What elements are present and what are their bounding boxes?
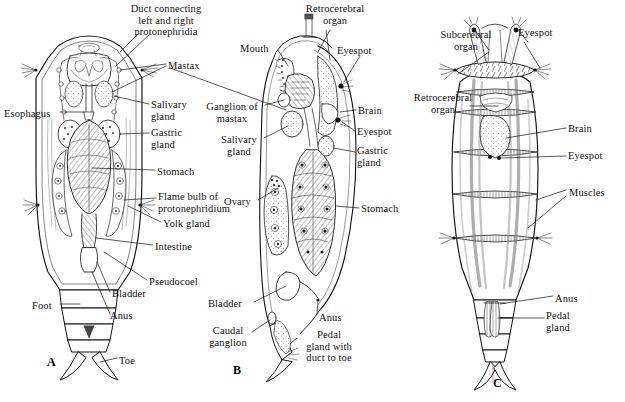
label-anus-b: Anus <box>319 312 351 324</box>
label-anus-c: Anus <box>555 293 587 305</box>
label-retrocerebral-organ-c: Retrocerebral organ <box>404 92 482 115</box>
plate-letter-b: B <box>233 363 241 378</box>
a-intestine <box>81 214 96 248</box>
label-bladder-a: Bladder <box>112 288 158 300</box>
b-salivary-gland <box>281 111 303 137</box>
label-esophagus: Esophagus <box>4 108 60 120</box>
label-duct-connecting-protonephridia: Duct connecting left and right protoneph… <box>116 3 216 38</box>
label-gastric-gland-a: Gastric gland <box>151 127 201 150</box>
label-eyespot-b1: Eyespot <box>337 45 383 57</box>
label-subcerebral-organ: Subcerebral organ <box>431 29 501 52</box>
plate-letter-c: C <box>493 376 502 391</box>
b-bladder <box>276 272 300 300</box>
label-retrocerebral-organ-b: Retrocerebral organ <box>296 3 374 26</box>
b-toe <box>266 360 292 382</box>
label-pseudocoel: Pseudocoel <box>149 276 211 288</box>
label-mastax: Mastax <box>168 60 214 72</box>
label-stomach-a: Stomach <box>157 166 209 178</box>
label-stomach-b: Stomach <box>361 203 413 215</box>
b-eyespot-lower <box>335 117 340 122</box>
panel-a-drawing <box>21 36 157 380</box>
label-caudal-ganglion: Caudal ganglion <box>203 325 253 348</box>
b-eyespot-upper <box>338 83 343 88</box>
label-eyespot-b2: Eyespot <box>357 126 403 138</box>
label-salivary-gland-b: Salivary gland <box>214 134 264 157</box>
label-foot: Foot <box>32 300 60 312</box>
b-esophagus <box>304 108 310 146</box>
label-eyespot-c2: Eyespot <box>568 150 614 162</box>
label-intestine: Intestine <box>155 241 205 253</box>
label-eyespot-c1: Eyespot <box>518 27 564 39</box>
panel-b-drawing <box>260 14 356 382</box>
label-gastric-gland-b: Gastric gland <box>357 145 407 168</box>
label-anus-a: Anus <box>110 310 142 322</box>
c-corona-band <box>455 62 535 78</box>
label-toe: Toe <box>119 355 145 367</box>
a-salivary-gland-left <box>65 81 83 107</box>
label-mouth: Mouth <box>240 43 280 55</box>
label-brain-b: Brain <box>358 105 392 117</box>
panel-c-drawing <box>439 17 552 390</box>
a-bladder <box>80 248 97 272</box>
a-toes <box>60 352 118 380</box>
label-pedal-gland-with-duct-to-toe: Pedal gland with duct to toe <box>299 329 359 364</box>
label-bladder-b: Bladder <box>208 298 254 310</box>
b-stomach <box>292 150 336 276</box>
label-pedal-gland-c: Pedal gland <box>546 310 586 333</box>
label-muscles: Muscles <box>569 187 619 199</box>
a-mastax <box>67 50 111 86</box>
a-salivary-gland-right <box>95 81 113 107</box>
b-anus-point <box>316 298 319 301</box>
label-ganglion-of-mastax: Ganglion of mastax <box>199 101 265 124</box>
b-ovary <box>264 176 289 255</box>
label-brain-c: Brain <box>568 123 602 135</box>
b-caudal-ganglion <box>268 312 276 324</box>
label-salivary-gland-a: Salivary gland <box>151 99 201 122</box>
label-ovary: Ovary <box>224 196 260 208</box>
c-pedal-glands <box>484 302 500 337</box>
a-apex-cap <box>79 43 100 53</box>
plate-letter-a: A <box>47 355 56 370</box>
label-yolk-gland: Yolk gland <box>163 218 221 230</box>
